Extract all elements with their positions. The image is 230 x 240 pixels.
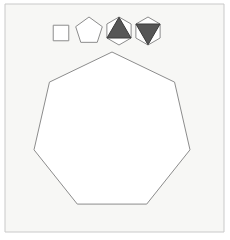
square-outline [53,25,69,41]
shapes-figure [0,0,230,240]
figure-canvas [0,0,230,240]
square [53,25,69,41]
